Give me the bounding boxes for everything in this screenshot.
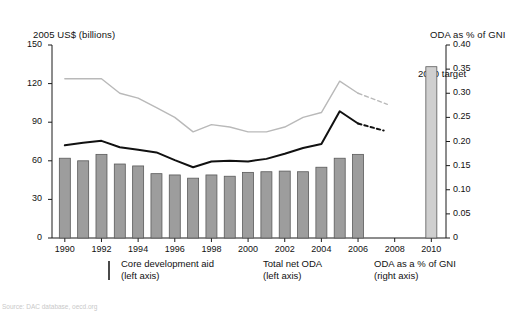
y2-tick-label-0.20: 0.20 (453, 136, 483, 146)
x-tick-label-2000: 2000 (228, 244, 268, 254)
y2-tick-label-0.10: 0.10 (453, 184, 483, 194)
y2-tick-label-0.40: 0.40 (453, 39, 483, 49)
y-tick-label-0: 0 (16, 232, 42, 242)
plot-area (0, 0, 526, 260)
x-tick-label-1996: 1996 (155, 244, 195, 254)
y-tick-label-150: 150 (16, 39, 42, 49)
cropped-header-text (150, 2, 380, 12)
source-note: Source: DAC database, oecd.org (2, 303, 97, 310)
x-tick-label-1998: 1998 (191, 244, 231, 254)
y2-tick-label-0.05: 0.05 (453, 208, 483, 218)
legend-label-total: Total net ODA (263, 258, 322, 269)
y-tick-label-30: 30 (16, 193, 42, 203)
chart-figure: 2005 US$ (billions) ODA as % of GNI 2010… (0, 0, 526, 315)
y2-tick-label-0: 0 (453, 232, 483, 242)
legend-label-pct: ODA as a % of GNI (374, 258, 456, 269)
x-tick-label-1994: 1994 (118, 244, 158, 254)
y-tick-label-60: 60 (16, 155, 42, 165)
bar-swatch-icon (108, 262, 110, 280)
x-tick-label-1990: 1990 (45, 244, 85, 254)
y2-tick-label-0.25: 0.25 (453, 111, 483, 121)
x-tick-label-2008: 2008 (375, 244, 415, 254)
legend-sublabel-core: (left axis) (121, 270, 214, 282)
chart-legend: Core development aid (left axis) Total n… (0, 259, 526, 293)
x-tick-label-2010: 2010 (411, 244, 451, 254)
legend-label-core: Core development aid (121, 258, 214, 269)
x-tick-label-2002: 2002 (265, 244, 305, 254)
y2-tick-label-0.15: 0.15 (453, 160, 483, 170)
legend-sublabel-pct: (right axis) (374, 270, 456, 282)
x-tick-label-2004: 2004 (301, 244, 341, 254)
x-tick-label-1992: 1992 (81, 244, 121, 254)
y-tick-label-90: 90 (16, 116, 42, 126)
legend-sublabel-total: (left axis) (263, 270, 322, 282)
y2-tick-label-0.30: 0.30 (453, 87, 483, 97)
y2-tick-label-0.35: 0.35 (453, 63, 483, 73)
x-tick-label-2006: 2006 (338, 244, 378, 254)
y-tick-label-120: 120 (16, 78, 42, 88)
